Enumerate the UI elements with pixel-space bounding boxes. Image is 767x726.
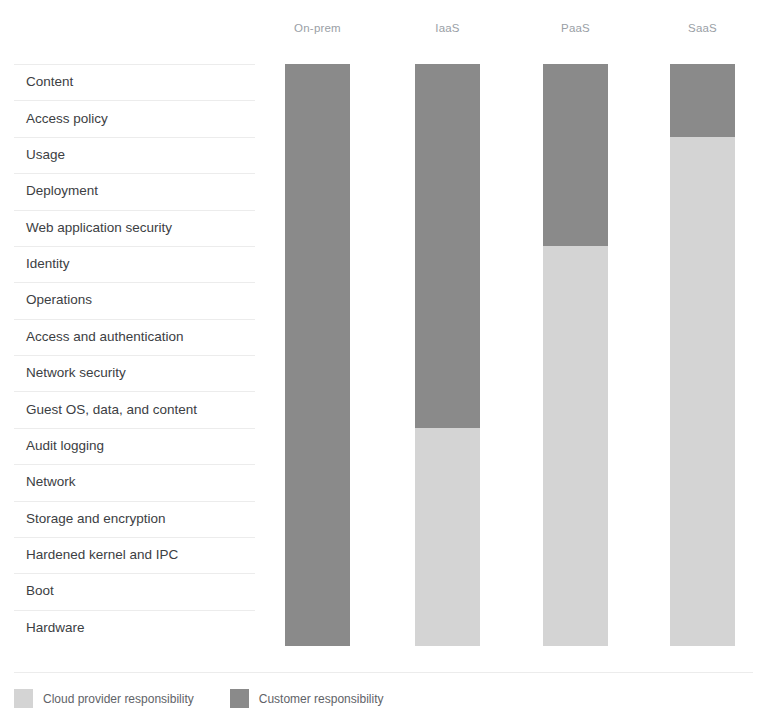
row-separator bbox=[14, 319, 255, 320]
row-label-deployment: Deployment bbox=[26, 185, 98, 199]
row-label-hardened-kernel-and-ipc: Hardened kernel and IPC bbox=[26, 548, 178, 562]
row-band: Operations bbox=[0, 282, 767, 318]
column-header-on-prem: On-prem bbox=[263, 22, 373, 34]
row-band: Storage and encryption bbox=[0, 501, 767, 537]
row-label-access-and-authentication: Access and authentication bbox=[26, 330, 184, 344]
legend-label: Customer responsibility bbox=[259, 692, 384, 706]
row-band: Content bbox=[0, 64, 767, 100]
row-separator bbox=[14, 610, 255, 611]
bar-segment-provider-saas bbox=[670, 137, 735, 646]
row-label-web-application-security: Web application security bbox=[26, 221, 172, 235]
row-band: Web application security bbox=[0, 210, 767, 246]
row-label-audit-logging: Audit logging bbox=[26, 439, 104, 453]
bar-segment-customer-on-prem bbox=[285, 64, 350, 646]
row-band: Usage bbox=[0, 137, 767, 173]
legend-item-group: Cloud provider responsibilityCustomer re… bbox=[14, 689, 419, 708]
row-label-identity: Identity bbox=[26, 257, 70, 271]
bar-on-prem bbox=[285, 64, 350, 646]
row-label-operations: Operations bbox=[26, 294, 92, 308]
row-label-content: Content bbox=[26, 75, 73, 89]
row-separator bbox=[14, 464, 255, 465]
row-band: Network security bbox=[0, 355, 767, 391]
chart-legend: Cloud provider responsibilityCustomer re… bbox=[14, 672, 753, 714]
legend-swatch-icon bbox=[230, 689, 249, 708]
row-label-storage-and-encryption: Storage and encryption bbox=[26, 512, 166, 526]
row-band: Boot bbox=[0, 573, 767, 609]
row-separator bbox=[14, 173, 255, 174]
row-separator bbox=[14, 355, 255, 356]
row-label-access-policy: Access policy bbox=[26, 112, 108, 126]
bar-segment-provider-iaas bbox=[415, 428, 480, 646]
row-separator bbox=[14, 391, 255, 392]
row-separator bbox=[14, 210, 255, 211]
bar-iaas bbox=[415, 64, 480, 646]
row-band: Deployment bbox=[0, 173, 767, 209]
row-separator bbox=[14, 282, 255, 283]
row-separator bbox=[14, 501, 255, 502]
shared-responsibility-chart: On-premIaaSPaaSSaaS ContentAccess policy… bbox=[0, 0, 767, 726]
row-separator bbox=[14, 137, 255, 138]
row-label-hardware: Hardware bbox=[26, 621, 85, 635]
plot-area: ContentAccess policyUsageDeploymentWeb a… bbox=[0, 64, 767, 646]
legend-item-customer: Customer responsibility bbox=[230, 689, 384, 708]
bar-segment-provider-paas bbox=[543, 246, 608, 646]
column-header-iaas: IaaS bbox=[393, 22, 503, 34]
row-band: Access policy bbox=[0, 100, 767, 136]
row-label-network: Network bbox=[26, 476, 76, 490]
row-band: Network bbox=[0, 464, 767, 500]
column-header-saas: SaaS bbox=[648, 22, 758, 34]
bar-saas bbox=[670, 64, 735, 646]
row-label-boot: Boot bbox=[26, 585, 54, 599]
row-band: Access and authentication bbox=[0, 319, 767, 355]
row-separator bbox=[14, 428, 255, 429]
column-header-paas: PaaS bbox=[521, 22, 631, 34]
bar-segment-customer-paas bbox=[543, 64, 608, 246]
legend-swatch-icon bbox=[14, 689, 33, 708]
bar-segment-customer-iaas bbox=[415, 64, 480, 428]
row-separator bbox=[14, 573, 255, 574]
row-band: Hardware bbox=[0, 610, 767, 646]
row-separator bbox=[14, 246, 255, 247]
row-separator bbox=[14, 64, 255, 65]
row-separator bbox=[14, 100, 255, 101]
legend-label: Cloud provider responsibility bbox=[43, 692, 194, 706]
legend-item-cloud-provider: Cloud provider responsibility bbox=[14, 689, 194, 708]
row-band: Hardened kernel and IPC bbox=[0, 537, 767, 573]
bar-paas bbox=[543, 64, 608, 646]
row-label-guest-os-data-and-content: Guest OS, data, and content bbox=[26, 403, 197, 417]
row-label-usage: Usage bbox=[26, 148, 65, 162]
bar-segment-customer-saas bbox=[670, 64, 735, 137]
row-band: Guest OS, data, and content bbox=[0, 391, 767, 427]
row-label-network-security: Network security bbox=[26, 366, 126, 380]
row-separator bbox=[14, 537, 255, 538]
row-band: Identity bbox=[0, 246, 767, 282]
row-band: Audit logging bbox=[0, 428, 767, 464]
